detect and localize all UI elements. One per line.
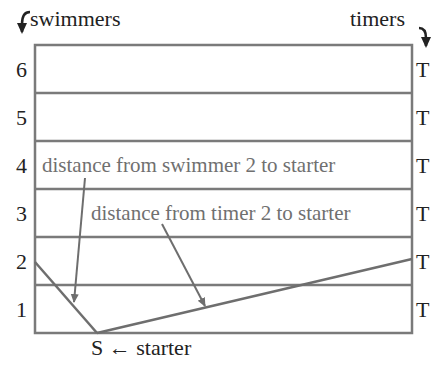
swimmer-distance-arrow bbox=[74, 178, 85, 302]
lane-number-3: 3 bbox=[16, 203, 27, 225]
pool-diagram bbox=[0, 0, 442, 371]
lane-number-2: 2 bbox=[16, 251, 27, 273]
timer-distance-label: distance from timer 2 to starter bbox=[91, 203, 351, 224]
swimmers-heading: swimmers bbox=[30, 8, 120, 30]
starter-label: S ← starter bbox=[91, 337, 191, 359]
timer-6: T bbox=[416, 59, 429, 81]
lane-number-5: 5 bbox=[16, 107, 27, 129]
swimmer-distance-label: distance from swimmer 2 to starter bbox=[42, 155, 335, 176]
lane-number-1: 1 bbox=[16, 299, 27, 321]
timer-to-starter-line bbox=[97, 259, 412, 333]
timer-5: T bbox=[416, 107, 429, 129]
timer-4: T bbox=[416, 155, 429, 177]
timer-3: T bbox=[416, 203, 429, 225]
lane-number-6: 6 bbox=[16, 59, 27, 81]
lane-number-4: 4 bbox=[16, 155, 27, 177]
timers-heading: timers bbox=[350, 8, 405, 30]
pool-outline bbox=[35, 45, 412, 333]
swimmers-curved-arrow-icon bbox=[22, 12, 30, 32]
timer-2: T bbox=[416, 251, 429, 273]
swimmer-to-starter-line bbox=[35, 262, 97, 333]
timers-curved-arrow-icon bbox=[419, 28, 426, 46]
timer-1: T bbox=[416, 299, 429, 321]
